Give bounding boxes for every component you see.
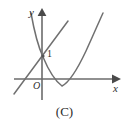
figure-container: y x O 1 (C) [0, 0, 129, 127]
y-intercept-label: 1 [47, 49, 52, 59]
figure-caption: (C) [0, 104, 129, 120]
straight-line [14, 21, 68, 94]
y-axis-arrow-icon [38, 8, 47, 16]
y-intercept-point [41, 54, 44, 57]
y-axis-label: y [29, 7, 34, 18]
origin-label: O [33, 81, 40, 91]
x-axis-label: x [113, 83, 118, 94]
